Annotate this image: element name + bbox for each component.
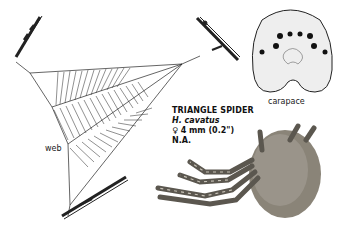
illustration-canvas (0, 0, 339, 230)
scientific-name: H. cavatus (172, 116, 254, 126)
twig-top-right (197, 17, 240, 60)
twig-top-left (16, 16, 42, 57)
species-info: TRIANGLE SPIDER H. cavatus ♀ 4 mm (0.2")… (172, 106, 254, 146)
field-guide-illustration: web carapace TRIANGLE SPIDER H. cavatus … (0, 0, 339, 230)
carapace-label: carapace (268, 97, 305, 106)
common-name: TRIANGLE SPIDER (172, 106, 254, 116)
range-info: N.A. (172, 136, 254, 146)
size-info: ♀ 4 mm (0.2") (172, 126, 254, 136)
carapace-illustration (252, 10, 332, 92)
twig-bottom (62, 177, 128, 219)
web-label: web (45, 144, 62, 153)
